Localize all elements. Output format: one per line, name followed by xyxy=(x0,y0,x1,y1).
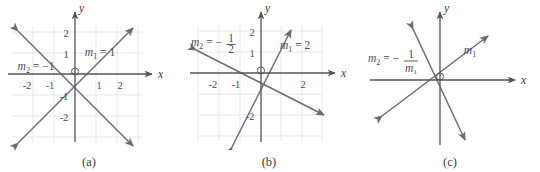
panel-a-graph: x y -2 -1 1 2 2 1 -1 -2 m1 = 1 m2 = −1 xyxy=(0,0,178,150)
x-tick-neg2-a: -2 xyxy=(23,80,32,91)
y-tick-1-b: 1 xyxy=(249,48,254,59)
x-tick-neg2-b: -2 xyxy=(209,79,218,90)
caption-a: (a) xyxy=(0,155,178,170)
line-m2-c xyxy=(413,29,465,140)
y-tick-2-a: 2 xyxy=(63,28,68,39)
caption-b: (b) xyxy=(178,155,360,170)
label-m2-a-prefix: m xyxy=(18,60,26,72)
panel-a: x y -2 -1 1 2 2 1 -1 -2 m1 = 1 m2 = −1 xyxy=(0,0,178,172)
y-axis-label-b: y xyxy=(264,2,271,15)
panel-c: x y m1 m2 = − 1 m1 (c) xyxy=(360,0,540,172)
label-m1-a-eq: = 1 xyxy=(100,46,115,58)
label-m1-b: m1 = 2 xyxy=(280,39,311,54)
label-m1-a-prefix: m xyxy=(85,46,93,58)
label-m2-b-frac-den: 2 xyxy=(228,43,234,55)
y-tick-neg2-a: -2 xyxy=(60,112,69,123)
x-tick-2-a: 2 xyxy=(117,80,122,91)
panel-b-graph: x y -2 -1 2 2 1 -2 m1 = 2 m2 = − 1 2 xyxy=(178,0,360,150)
y-tick-neg1-a: -1 xyxy=(60,91,69,102)
svg-text:m1 = 2: m1 = 2 xyxy=(280,39,311,54)
label-m1-c-sub: 1 xyxy=(472,50,476,59)
y-tick-1-a: 1 xyxy=(63,49,68,60)
y-axis-label-a: y xyxy=(78,2,85,15)
caption-c: (c) xyxy=(360,155,540,170)
x-tick-1-a: 1 xyxy=(96,80,101,91)
panel-c-graph: x y m1 m2 = − 1 m1 xyxy=(360,0,540,150)
label-m1-b-prefix: m xyxy=(280,39,288,51)
svg-text:m2 = −1: m2 = −1 xyxy=(18,60,55,75)
label-m2-c-eq: = − xyxy=(383,52,399,64)
label-m2-c-frac-den: m xyxy=(405,62,413,74)
label-m2-c: m2 = − 1 m1 xyxy=(368,48,418,76)
x-tick-neg1-b: -1 xyxy=(232,79,241,90)
y-axis-label-c: y xyxy=(443,2,450,15)
label-m1-b-eq: = 2 xyxy=(295,39,310,51)
label-m2-a: m2 = −1 xyxy=(18,60,55,75)
label-m1-a: m1 = 1 xyxy=(85,46,116,61)
x-tick-2-b: 2 xyxy=(300,79,305,90)
y-tick-neg2-b: -2 xyxy=(246,111,255,122)
label-m2-c-frac-den-sub: 1 xyxy=(413,68,417,76)
svg-text:m2 = −: m2 = − xyxy=(368,52,399,67)
svg-text:m1: m1 xyxy=(405,62,417,76)
label-m2-b-eq: = − xyxy=(206,36,222,48)
label-m1-c-prefix: m xyxy=(464,44,472,56)
label-m2-c-prefix: m xyxy=(368,52,376,64)
svg-text:m1 = 1: m1 = 1 xyxy=(85,46,116,61)
label-m2-a-eq: = −1 xyxy=(33,60,55,72)
svg-text:m2 = −: m2 = − xyxy=(191,36,222,51)
panel-b: x y -2 -1 2 2 1 -2 m1 = 2 m2 = − 1 2 xyxy=(178,0,360,172)
label-m2-c-frac-num: 1 xyxy=(408,48,414,60)
x-axis-label-c: x xyxy=(520,74,527,86)
label-m2-b-prefix: m xyxy=(191,36,199,48)
y-tick-2-b: 2 xyxy=(249,27,254,38)
x-tick-neg1-a: -1 xyxy=(46,80,55,91)
x-axis-label-b: x xyxy=(340,67,347,79)
figure-row: x y -2 -1 1 2 2 1 -1 -2 m1 = 1 m2 = −1 xyxy=(0,0,540,172)
x-axis-label-a: x xyxy=(157,68,164,80)
